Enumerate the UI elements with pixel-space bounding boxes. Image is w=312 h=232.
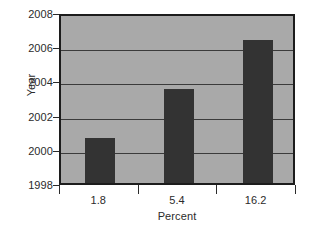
y-tick: 1998 xyxy=(0,179,53,192)
y-tick-label: 2004 xyxy=(7,76,53,89)
x-tick-label: 16.2 xyxy=(226,194,286,207)
y-tick-label: 1998 xyxy=(7,179,53,192)
bar xyxy=(243,40,273,183)
x-tick-label: 1.8 xyxy=(68,194,128,207)
y-tick-label: 2008 xyxy=(7,8,53,21)
x-tick-mark xyxy=(216,185,217,194)
bar xyxy=(85,138,115,183)
y-tick: 2006 xyxy=(0,42,53,55)
bar-chart-figure: Year 199820002002200420062008 1.85.416.2… xyxy=(0,0,312,232)
x-tick-mark xyxy=(138,185,139,194)
x-tick-mark xyxy=(295,185,296,194)
x-tick-label: 5.4 xyxy=(147,194,207,207)
bar xyxy=(164,89,194,183)
plot-area xyxy=(59,14,295,185)
y-tick-label: 2002 xyxy=(7,111,53,124)
y-tick: 2000 xyxy=(0,145,53,158)
y-tick: 2002 xyxy=(0,111,53,124)
y-tick: 2008 xyxy=(0,8,53,21)
y-tick-label: 2000 xyxy=(7,145,53,158)
y-tick: 2004 xyxy=(0,76,53,89)
x-tick-mark xyxy=(59,185,60,194)
y-tick-label: 2006 xyxy=(7,42,53,55)
x-axis-title: Percent xyxy=(59,210,295,222)
